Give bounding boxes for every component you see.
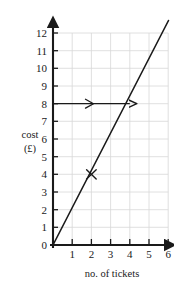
grid-lines	[53, 33, 168, 245]
x-tick-label-5: 5	[146, 248, 152, 260]
y-tick-label-6: 6	[42, 133, 48, 145]
y-tick-label-2: 2	[42, 204, 48, 216]
y-tick-label-0: 0	[42, 239, 48, 251]
y-tick-label-10: 10	[36, 62, 48, 74]
y-tick-label-8: 8	[42, 98, 48, 110]
y-tick-label-9: 9	[42, 80, 48, 92]
x-tick-label-3: 3	[108, 248, 114, 260]
y-tick-label-3: 3	[42, 186, 48, 198]
y-axis-title-line1: cost	[22, 129, 39, 140]
y-tick-label-7: 7	[42, 115, 48, 127]
x-tick-label-4: 4	[127, 248, 133, 260]
y-axis-title-line2: (£)	[24, 143, 37, 155]
x-tick-label-6: 6	[165, 248, 171, 260]
y-tick-label-4: 4	[42, 168, 48, 180]
chart-figure: 0 1 2 3 4 5 6 7 8 9 10 11 12 1 2 3 4 5 6…	[0, 0, 174, 286]
y-tick-label-12: 12	[36, 27, 47, 39]
cost-vs-tickets-line-graph: 0 1 2 3 4 5 6 7 8 9 10 11 12 1 2 3 4 5 6…	[0, 0, 174, 286]
x-axis-title: no. of tickets	[85, 268, 140, 279]
y-tick-label-1: 1	[42, 221, 48, 233]
y-tick-label-5: 5	[42, 151, 48, 163]
x-tick-label-2: 2	[89, 248, 95, 260]
y-tick-label-11: 11	[36, 45, 47, 57]
x-tick-label-1: 1	[69, 248, 75, 260]
x-tick-labels: 1 2 3 4 5 6	[69, 248, 171, 260]
